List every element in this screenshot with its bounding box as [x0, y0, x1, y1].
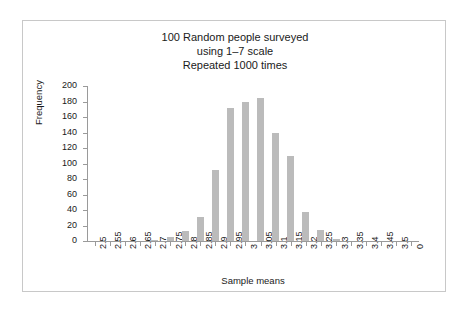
- bar: [151, 240, 158, 241]
- x-axis-tick-label: 3.45: [385, 231, 395, 249]
- x-axis-tick: [215, 242, 216, 246]
- y-axis-title: Frequency: [33, 80, 44, 125]
- x-axis-tick: [276, 242, 277, 246]
- x-axis-tick: [245, 242, 246, 246]
- y-axis-tick-label: 140: [62, 127, 77, 137]
- y-axis-tick: 180: [83, 102, 87, 103]
- x-axis-tick: [200, 242, 201, 246]
- y-axis-tick-label: 80: [67, 173, 77, 183]
- bar: [227, 108, 234, 241]
- x-axis-tick: [125, 242, 126, 246]
- y-axis-tick: 200: [83, 86, 87, 87]
- y-axis-tick: 40: [83, 210, 87, 211]
- y-axis-tick: 60: [83, 195, 87, 196]
- y-axis-tick: 20: [83, 226, 87, 227]
- chart-title-line-3: Repeated 1000 times: [23, 58, 447, 72]
- chart-figure: 100 Random people surveyed using 1–7 sca…: [22, 20, 446, 292]
- bar: [317, 230, 324, 241]
- x-axis-tick-label: 3.5: [400, 236, 410, 249]
- y-axis-tick-label: 20: [67, 220, 77, 230]
- y-axis-tick: 80: [83, 179, 87, 180]
- x-axis-tick: [261, 242, 262, 246]
- x-axis-tick: [291, 242, 292, 246]
- bar: [212, 170, 219, 241]
- bar: [333, 239, 340, 241]
- y-axis-tick-label: 0: [72, 235, 77, 245]
- y-axis-tick-label: 60: [67, 189, 77, 199]
- y-axis-tick: 100: [83, 164, 87, 165]
- x-axis-tick-label: 3.35: [355, 231, 365, 249]
- y-axis-tick-label: 40: [67, 204, 77, 214]
- x-axis-tick: [95, 242, 96, 246]
- x-axis-tick: [336, 242, 337, 246]
- y-axis-tick-label: 120: [62, 142, 77, 152]
- x-axis-tick: [411, 242, 412, 246]
- x-axis-title: Sample means: [87, 275, 419, 286]
- y-axis-tick-label: 160: [62, 111, 77, 121]
- x-axis-tick: [140, 242, 141, 246]
- chart-title-line-1: 100 Random people surveyed: [23, 30, 447, 44]
- x-axis-tick-label: 2.6: [128, 236, 138, 249]
- x-axis-tick: [351, 242, 352, 246]
- y-axis-tick-label: 200: [62, 80, 77, 90]
- x-axis-tick-label: 3.4: [370, 236, 380, 249]
- chart-title-line-2: using 1–7 scale: [23, 44, 447, 58]
- bar: [302, 212, 309, 241]
- x-axis-tick-label: 2.55: [113, 231, 123, 249]
- x-axis-tick: [230, 242, 231, 246]
- plot-area: 020406080100120140160180200 2.52.552.62.…: [87, 86, 419, 241]
- bar: [182, 231, 189, 241]
- x-axis-tick-label: 2.5: [98, 236, 108, 249]
- x-axis-tick: [170, 242, 171, 246]
- x-axis-tick: [155, 242, 156, 246]
- bar: [287, 156, 294, 241]
- bar: [242, 102, 249, 242]
- x-axis-tick: [110, 242, 111, 246]
- x-axis-tick-label: 3.3: [340, 236, 350, 249]
- y-axis-line: [87, 86, 88, 241]
- x-axis-tick: [366, 242, 367, 246]
- x-axis-tick: [185, 242, 186, 246]
- x-axis-tick: [381, 242, 382, 246]
- x-axis-tick-label: 3: [249, 244, 259, 249]
- y-axis-tick: 120: [83, 148, 87, 149]
- x-axis-tick: [321, 242, 322, 246]
- y-axis-tick-label: 180: [62, 96, 77, 106]
- x-axis-tick: [396, 242, 397, 246]
- bar: [167, 237, 174, 241]
- bar: [257, 98, 264, 241]
- x-axis-tick: [306, 242, 307, 246]
- bar: [272, 133, 279, 242]
- chart-title: 100 Random people surveyed using 1–7 sca…: [23, 30, 447, 72]
- x-axis-tick-label: 0: [415, 244, 425, 249]
- y-axis-tick-label: 100: [62, 158, 77, 168]
- y-axis-tick: 0: [83, 241, 87, 242]
- y-axis-tick: 140: [83, 133, 87, 134]
- y-axis-tick: 160: [83, 117, 87, 118]
- bar: [197, 217, 204, 241]
